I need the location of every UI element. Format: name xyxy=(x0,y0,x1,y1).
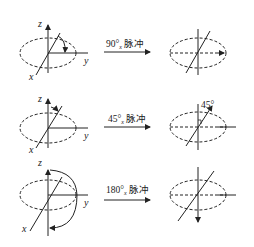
angle-annotation: 45° xyxy=(201,100,215,110)
z-axis-label: z xyxy=(37,93,42,104)
row1-before-frame xyxy=(20,25,88,75)
row3-before-frame xyxy=(20,170,88,236)
row3-after-frame xyxy=(170,167,236,222)
nmr-pulse-diagram: z x y 90°x脉冲 z x y 45°x脉冲 45° xyxy=(0,0,254,247)
y-axis-label: y xyxy=(83,130,89,141)
x-axis-label: x xyxy=(28,144,34,155)
row2-before-frame xyxy=(20,99,88,148)
pulse-text: 脉冲 xyxy=(129,184,149,195)
pulse-text: 脉冲 xyxy=(126,113,146,124)
pulse-text: 脉冲 xyxy=(124,38,144,49)
row1-after-frame xyxy=(170,29,226,75)
row2-pulse-arrow: 45°x脉冲 xyxy=(104,113,150,127)
svg-text:45°x脉冲: 45°x脉冲 xyxy=(108,113,146,125)
svg-text:90°x脉冲: 90°x脉冲 xyxy=(106,38,144,50)
y-axis-label: y xyxy=(83,55,89,66)
x-axis-label: x xyxy=(21,223,27,234)
z-axis-label: z xyxy=(37,18,42,29)
pulse-angle: 90° xyxy=(106,39,120,49)
y-axis-label: y xyxy=(83,197,89,208)
pulse-angle: 45° xyxy=(108,114,122,124)
x-axis-label: x xyxy=(28,71,34,82)
row2-after-frame xyxy=(170,104,236,150)
z-axis-label: z xyxy=(37,157,42,168)
row3-pulse-arrow: 180°x脉冲 xyxy=(104,184,150,200)
pulse-angle: 180° xyxy=(106,185,124,195)
svg-text:180°x脉冲: 180°x脉冲 xyxy=(106,184,149,196)
row1-pulse-arrow: 90°x脉冲 xyxy=(104,38,150,52)
